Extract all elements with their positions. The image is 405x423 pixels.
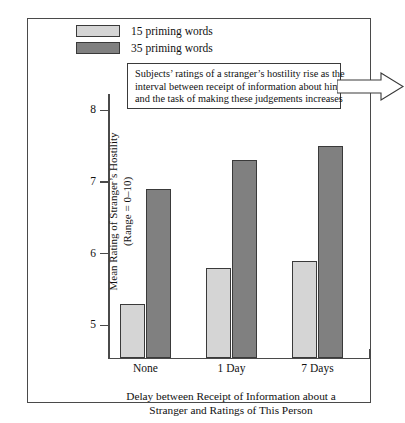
y-tick-label-5: 5 bbox=[82, 319, 96, 330]
annotation-line-0: Subjects’ ratings of a stranger’s hostil… bbox=[135, 68, 334, 81]
y-tick-label-7: 7 bbox=[82, 176, 96, 187]
annotation-line-1: interval between receipt of information … bbox=[135, 81, 334, 94]
x-axis-line bbox=[108, 358, 370, 360]
legend-item-1: 35 priming words bbox=[76, 40, 213, 55]
x-tick-label-2: 7 Days bbox=[278, 362, 358, 375]
legend-swatch-icon-1 bbox=[76, 42, 120, 54]
x-axis-title-line-0: Delay between Receipt of Information abo… bbox=[96, 389, 366, 403]
x-axis-end-tick bbox=[369, 349, 371, 358]
bar-1-day-series-0 bbox=[206, 268, 231, 358]
y-axis-title: Mean Rating of Stranger’s Hostility (Ran… bbox=[107, 117, 134, 307]
x-axis-title-line-1: Stranger and Ratings of This Person bbox=[96, 403, 366, 417]
y-tick-label-8: 8 bbox=[82, 104, 96, 115]
legend-swatch-icon-0 bbox=[76, 25, 120, 37]
y-axis-title-line-0: Mean Rating of Stranger’s Hostility bbox=[107, 117, 121, 307]
legend-label-0: 15 priming words bbox=[131, 25, 213, 37]
legend-item-0: 15 priming words bbox=[76, 23, 213, 38]
y-axis-title-line-1: (Range = 0–10) bbox=[120, 117, 134, 307]
bar-none-series-1 bbox=[146, 189, 171, 357]
bar-none-series-0 bbox=[120, 304, 145, 358]
y-tick-mark-8 bbox=[100, 110, 109, 112]
x-axis-title: Delay between Receipt of Information abo… bbox=[96, 389, 366, 417]
x-tick-label-1: 1 Day bbox=[192, 362, 272, 375]
y-tick-mark-5 bbox=[100, 325, 109, 327]
bar-7-days-series-1 bbox=[318, 146, 343, 357]
x-tick-label-0: None bbox=[106, 362, 186, 375]
chart-legend: 15 priming words 35 priming words bbox=[76, 23, 213, 57]
plot-area: 8765 None1 Day7 Days Mean Rating of Stra… bbox=[82, 94, 370, 359]
bar-1-day-series-1 bbox=[232, 160, 257, 357]
y-tick-label-6: 6 bbox=[82, 248, 96, 259]
bar-7-days-series-0 bbox=[292, 261, 317, 358]
chart-frame: 15 priming words 35 priming words Subjec… bbox=[27, 18, 371, 403]
legend-label-1: 35 priming words bbox=[131, 42, 213, 54]
